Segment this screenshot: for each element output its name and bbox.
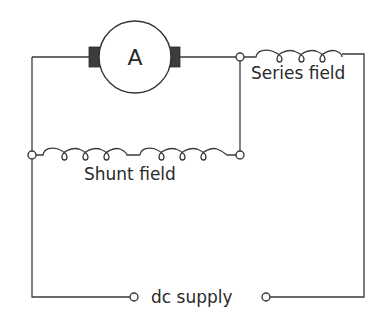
series-field-coil: [244, 50, 342, 62]
circuit-diagram: A Series field Shunt field dc supply: [0, 0, 385, 321]
shunt-terminal-right: [236, 151, 244, 159]
shunt-field-coil-1: [36, 148, 140, 160]
armature-label: A: [127, 45, 142, 70]
supply-terminal-left: [130, 293, 138, 301]
series-field-label: Series field: [251, 63, 345, 83]
supply-label: dc supply: [151, 287, 233, 307]
supply-terminal-right: [262, 293, 270, 301]
junction-terminal-top: [236, 53, 244, 61]
wire-right: [270, 54, 364, 297]
shunt-terminal-left: [28, 151, 36, 159]
shunt-field-label: Shunt field: [84, 164, 176, 184]
shunt-field-coil-2: [140, 148, 236, 160]
